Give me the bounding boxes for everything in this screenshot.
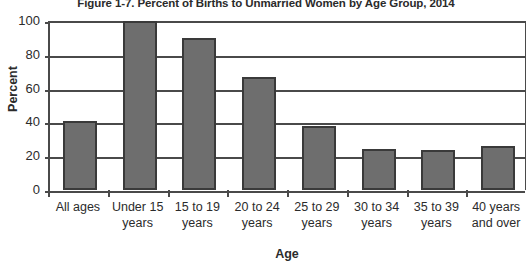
- bar[interactable]: [182, 38, 216, 190]
- bar-slot: [50, 23, 110, 190]
- bar-slot: [110, 23, 170, 190]
- x-axis-tick-mark: [466, 190, 468, 197]
- bar-slot: [349, 23, 409, 190]
- x-axis-title: Age: [48, 247, 526, 261]
- x-axis-tick-mark: [168, 190, 170, 197]
- bar-slot: [289, 23, 349, 190]
- bar-slot: [468, 23, 528, 190]
- x-axis-tick-label: 40 yearsand over: [466, 199, 526, 231]
- x-axis-tick-labels: All agesUnder 15years15 to 19years20 to …: [48, 199, 526, 239]
- x-axis-tick-mark: [407, 190, 409, 197]
- bar-slot: [170, 23, 230, 190]
- x-axis-tick-label: 15 to 19years: [168, 199, 228, 231]
- x-axis-tick-mark: [287, 190, 289, 197]
- bar[interactable]: [302, 126, 336, 190]
- plot-area: [48, 21, 526, 190]
- bars-layer: [50, 23, 525, 190]
- bar-slot: [229, 23, 289, 190]
- x-axis-tick-label: 20 to 24years: [227, 199, 287, 231]
- bar[interactable]: [481, 146, 515, 190]
- x-axis-tick-label: Under 15years: [108, 199, 168, 231]
- x-axis-tick-label: All ages: [48, 199, 108, 215]
- bar-slot: [409, 23, 469, 190]
- x-axis-tick-mark: [227, 190, 229, 197]
- bar-chart-figure: Figure 1-7. Percent of Births to Unmarri…: [0, 0, 532, 277]
- x-axis-tick-marks: [48, 190, 526, 197]
- x-axis-tick-label: 30 to 34years: [347, 199, 407, 231]
- y-axis-tick-label: 100: [0, 14, 40, 27]
- bar[interactable]: [242, 77, 276, 190]
- y-axis-tick-label: 0: [0, 183, 40, 196]
- chart-title: Figure 1-7. Percent of Births to Unmarri…: [0, 0, 532, 9]
- y-axis-tick-label: 20: [0, 149, 40, 162]
- y-axis-tick-label: 60: [0, 82, 40, 95]
- x-axis-tick-mark: [48, 190, 50, 197]
- x-axis-tick-mark: [347, 190, 349, 197]
- x-axis-tick-label: 35 to 39years: [407, 199, 467, 231]
- x-axis-tick-mark: [108, 190, 110, 197]
- bar[interactable]: [421, 150, 455, 190]
- y-axis-tick-label: 40: [0, 115, 40, 128]
- bar[interactable]: [123, 21, 157, 190]
- bar[interactable]: [362, 149, 396, 190]
- y-axis-tick-label: 80: [0, 48, 40, 61]
- bar[interactable]: [63, 121, 97, 190]
- x-axis-tick-label: 25 to 29years: [287, 199, 347, 231]
